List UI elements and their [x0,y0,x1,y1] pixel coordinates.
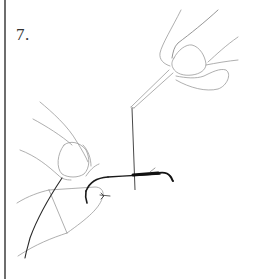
fly-tying-illustration [0,0,254,279]
illustration-page: 7. [0,0,254,279]
upper-hand-icon [131,10,238,108]
thread-icon [132,108,135,190]
fishing-hook-icon [25,168,173,258]
